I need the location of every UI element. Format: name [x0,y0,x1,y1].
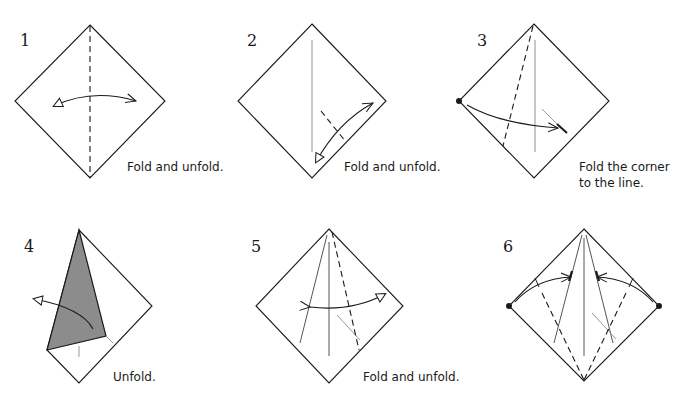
step-1-caption: Fold and unfold. [127,159,224,175]
step-3-number: 3 [477,33,487,49]
step-6-diagram [506,229,662,381]
step-2-caption: Fold and unfold. [344,159,441,175]
corner-dot-icon [456,98,462,104]
corner-dot-icon [506,303,512,309]
step-5-number: 5 [251,239,261,255]
step-1-number: 1 [20,33,30,49]
step-4-caption: Unfold. [113,369,156,385]
step-3-caption: Fold the corner to the line. [579,159,670,191]
step-4-number: 4 [24,239,34,255]
step-6-number: 6 [503,239,513,255]
step-2-number: 2 [247,33,257,49]
corner-dot-icon [656,303,662,309]
step-2-diagram [238,24,386,178]
step-5-caption: Fold and unfold. [363,369,460,385]
step-5-diagram [256,229,403,383]
step-4-diagram [34,230,152,383]
folding-diagram [0,0,684,406]
step-1-diagram [15,25,165,178]
